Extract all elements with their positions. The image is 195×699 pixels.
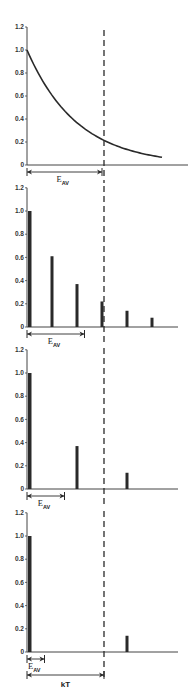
y-tick-label: 0.8: [15, 69, 24, 76]
eav-label-subscript: AV: [62, 180, 70, 186]
y-tick-label: 1.2: [15, 23, 24, 30]
bar: [28, 211, 32, 327]
chart-panel-3: 00.20.40.60.81.01.2EAV: [15, 346, 178, 510]
y-tick-label: 0: [20, 648, 24, 655]
y-tick-label: 0.2: [15, 138, 24, 145]
y-tick-label: 1.0: [15, 532, 24, 539]
y-tick-label: 0.6: [15, 579, 24, 586]
y-tick-label: 0.4: [15, 439, 24, 446]
y-tick-label: 0.4: [15, 602, 24, 609]
eav-label: EAV: [57, 174, 70, 186]
y-tick-label: 0.6: [15, 92, 24, 99]
eav-label-subscript: AV: [43, 504, 51, 510]
bar: [126, 636, 129, 652]
chart-panel-2: 00.20.40.60.81.01.2EAV: [15, 184, 178, 348]
bar: [28, 373, 32, 489]
eav-label: EAV: [48, 336, 61, 348]
bar: [101, 301, 104, 327]
y-tick-label: 0.6: [15, 254, 24, 261]
eav-label: EAV: [28, 661, 41, 673]
y-tick-label: 1.0: [15, 207, 24, 214]
chart-panel-4: 00.20.40.60.81.01.2EAVkT: [15, 509, 178, 689]
y-tick-label: 0.2: [15, 300, 24, 307]
y-tick-label: 0: [20, 161, 24, 168]
y-tick-label: 0.8: [15, 392, 24, 399]
kt-label: kT: [61, 680, 70, 689]
y-tick-label: 1.2: [15, 509, 24, 516]
bar: [126, 473, 129, 489]
y-tick-label: 0.4: [15, 115, 24, 122]
y-tick-label: 1.2: [15, 346, 24, 353]
y-tick-label: 0.8: [15, 555, 24, 562]
y-tick-label: 1.0: [15, 369, 24, 376]
y-tick-label: 0.8: [15, 230, 24, 237]
y-tick-label: 0.2: [15, 462, 24, 469]
y-tick-label: 1.0: [15, 46, 24, 53]
chart-panel-1: 00.20.40.60.81.01.2EAV: [15, 23, 188, 185]
y-tick-label: 0.4: [15, 277, 24, 284]
bar: [51, 256, 54, 327]
bar: [28, 536, 32, 652]
eav-label-subscript: AV: [53, 342, 61, 348]
y-tick-label: 0.2: [15, 625, 24, 632]
y-tick-label: 0: [20, 323, 24, 330]
eav-label-subscript: AV: [33, 667, 41, 673]
bar: [76, 284, 79, 327]
y-tick-label: 1.2: [15, 184, 24, 191]
y-tick-label: 0: [20, 485, 24, 492]
eav-label: EAV: [38, 498, 51, 510]
bar: [126, 311, 129, 327]
y-tick-label: 0.6: [15, 416, 24, 423]
figure-canvas: 00.20.40.60.81.01.2EAV00.20.40.60.81.01.…: [0, 0, 195, 699]
bar: [151, 318, 154, 327]
decay-curve: [27, 50, 162, 157]
bar: [76, 446, 79, 489]
